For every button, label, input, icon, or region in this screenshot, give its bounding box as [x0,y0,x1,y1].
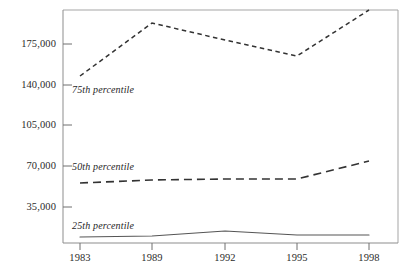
x-axis-label-1995: 1995 [271,252,323,263]
y-tick-marks [63,44,72,207]
chart-plot-area [0,0,409,267]
x-axis-label-1992: 1992 [199,252,251,263]
x-axis-label-1983: 1983 [54,252,106,263]
series-label-50th-percentile: 50th percentile [72,161,134,172]
y-axis-label-140000: 140,000 [2,79,56,90]
plot-frame-border [63,10,398,243]
y-axis-label-105000: 105,000 [2,119,56,130]
x-axis-label-1989: 1989 [126,252,178,263]
series-line-75th-percentile [80,10,369,76]
y-axis-label-70000: 70,000 [2,160,56,171]
series-label-75th-percentile: 75th percentile [72,84,134,95]
series-line-25th-percentile [80,231,369,237]
x-axis-label-1998: 1998 [343,252,395,263]
y-axis-label-35000: 35,000 [2,201,56,212]
chart-container: 175,000 140,000 105,000 70,000 35,000 19… [0,0,409,267]
x-tick-marks [80,243,369,250]
series-label-25th-percentile: 25th percentile [72,220,134,231]
y-axis-label-175000: 175,000 [2,38,56,49]
